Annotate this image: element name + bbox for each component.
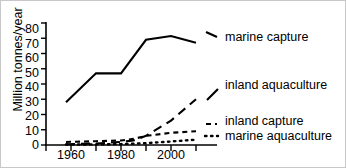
- legend-label-marine-capture: marine capture: [225, 31, 308, 45]
- x-axis-ticks: [46, 145, 196, 151]
- legend-label-inland-aquaculture: inland aquaculture: [225, 79, 327, 93]
- series-line-inland-aquaculture: [66, 99, 196, 144]
- legend-sample-inland-aquaculture: [207, 89, 218, 100]
- legend-sample-marine-capture: [206, 32, 217, 37]
- chart-figure: Million tonnes/year 80 70 60 50 40 30 20…: [0, 0, 346, 168]
- legend-label-inland-capture: inland capture: [225, 115, 304, 129]
- legend-label-marine-aquaculture: marine aquaculture: [225, 130, 332, 144]
- series-line-marine-capture: [66, 36, 196, 102]
